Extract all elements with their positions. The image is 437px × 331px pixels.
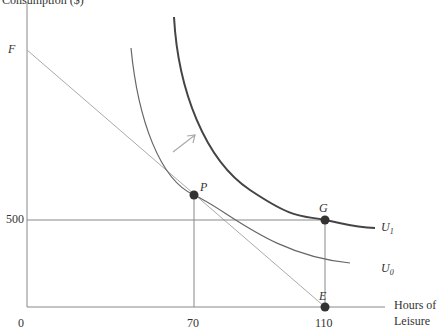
diagram-canvas: [0, 0, 437, 331]
label-p: P: [200, 180, 207, 195]
point-p: [190, 191, 199, 200]
utility-increase-arrow: [173, 135, 195, 152]
x-axis-label-line2: Leisure: [394, 314, 430, 329]
x-axis-label-line1: Hours of: [394, 298, 436, 313]
label-e: E: [319, 289, 326, 304]
label-u0: U0: [381, 261, 394, 277]
tick-label-0: 0: [18, 316, 24, 331]
indifference-curve-u0: [131, 48, 350, 263]
budget-line: [27, 50, 325, 307]
y-axis-label: Consumption ($): [2, 0, 84, 8]
tick-label-500: 500: [6, 212, 24, 227]
tick-label-70: 70: [187, 316, 199, 331]
label-f: F: [8, 42, 15, 57]
indifference-curve-u1: [174, 17, 375, 228]
tick-label-110: 110: [315, 316, 333, 331]
label-u1: U1: [381, 220, 394, 236]
label-g: G: [319, 201, 328, 216]
point-g: [321, 216, 330, 225]
